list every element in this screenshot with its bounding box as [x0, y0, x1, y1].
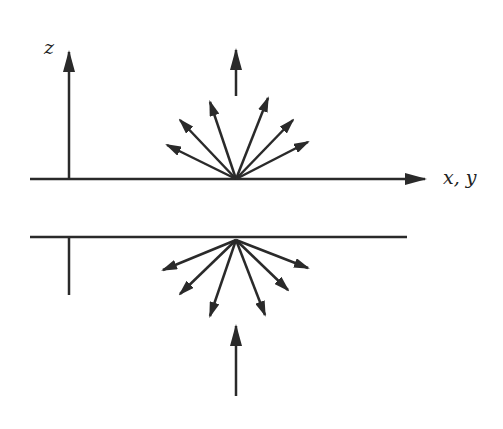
lower-fan-arrows-icon	[163, 240, 308, 316]
diffraction-diagram: z x, y	[0, 0, 503, 429]
z-axis-label: z	[43, 36, 55, 58]
z-axis: z	[43, 36, 69, 178]
lower-surface-line	[30, 237, 407, 295]
xy-axis-label: x, y	[443, 166, 477, 188]
upper-fan-arrows-icon	[167, 98, 308, 179]
